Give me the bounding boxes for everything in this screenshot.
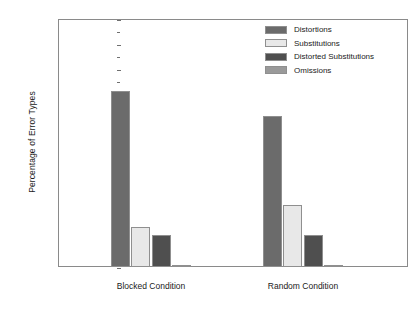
bar: [324, 265, 343, 267]
legend-item: Distorted Substitutions: [265, 50, 405, 64]
bar: [304, 235, 323, 267]
bar: [283, 205, 302, 267]
bar: [131, 227, 150, 267]
bar: [111, 91, 130, 267]
legend-swatch: [265, 26, 287, 34]
y-axis-title: Percentage of Error Types: [27, 47, 37, 237]
x-axis-tick-label: Random Condition: [243, 281, 363, 291]
legend-swatch: [265, 53, 287, 61]
bar-chart: Percentage of Error Types 01020304050607…: [0, 0, 418, 313]
legend-label: Distortions: [294, 25, 332, 34]
bar: [263, 116, 282, 267]
legend-item: Substitutions: [265, 37, 405, 51]
legend-label: Distorted Substitutions: [294, 52, 374, 61]
legend-swatch: [265, 39, 287, 47]
bar: [172, 265, 191, 267]
x-axis-tick-label: Blocked Condition: [91, 281, 211, 291]
tick-mark: [117, 268, 121, 269]
legend-item: Distortions: [265, 23, 405, 37]
chart-legend: DistortionsSubstitutionsDistorted Substi…: [265, 23, 405, 77]
bar: [152, 235, 171, 267]
legend-label: Omissions: [294, 66, 331, 75]
legend-swatch: [265, 66, 287, 74]
legend-label: Substitutions: [294, 39, 340, 48]
legend-item: Omissions: [265, 64, 405, 78]
